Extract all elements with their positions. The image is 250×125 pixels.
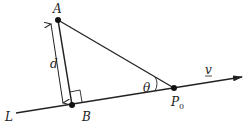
label-l: L [4, 110, 13, 124]
point-a-dot [55, 17, 61, 23]
diagram-canvas: A d B L θ P0 v [0, 0, 250, 125]
label-d: d [50, 57, 58, 71]
label-p-subscript: 0 [179, 102, 184, 111]
segment-ap0 [58, 20, 174, 88]
label-theta: θ [143, 81, 151, 95]
angle-arc [155, 77, 157, 91]
segment-ab [58, 20, 72, 105]
point-b-dot [69, 102, 75, 108]
label-p0: P0 [170, 95, 184, 111]
label-a: A [52, 2, 62, 16]
label-b: B [81, 110, 91, 124]
point-p0-dot [171, 85, 177, 91]
line-l [16, 77, 242, 113]
label-v: v [205, 63, 212, 77]
